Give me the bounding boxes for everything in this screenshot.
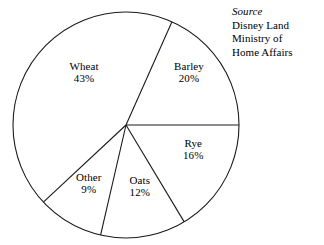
source-line-3: Home Affairs <box>232 46 324 60</box>
source-heading: Source <box>232 5 324 19</box>
slice-label-wheat: Wheat 43% <box>70 60 99 85</box>
slice-name-oats: Oats <box>130 174 151 186</box>
slice-label-rye: Rye 16% <box>183 137 203 162</box>
slice-value-barley: 20% <box>174 72 204 84</box>
slice-value-oats: 12% <box>130 186 151 198</box>
source-attribution: Source Disney Land Ministry of Home Affa… <box>232 5 324 59</box>
slice-name-other: Other <box>76 171 102 183</box>
slice-label-other: Other 9% <box>76 171 102 196</box>
slice-name-wheat: Wheat <box>70 60 99 72</box>
pie-chart-figure: Wheat 43% Barley 20% Rye 16% Oats 12% Ot… <box>0 0 324 245</box>
slice-name-barley: Barley <box>174 60 204 72</box>
slice-label-barley: Barley 20% <box>174 60 204 85</box>
source-line-2: Ministry of <box>232 32 324 46</box>
slice-value-wheat: 43% <box>70 72 99 84</box>
source-line-1: Disney Land <box>232 19 324 33</box>
slice-label-oats: Oats 12% <box>130 174 151 199</box>
slice-value-rye: 16% <box>183 149 203 161</box>
slice-name-rye: Rye <box>183 137 203 149</box>
slice-value-other: 9% <box>76 183 102 195</box>
